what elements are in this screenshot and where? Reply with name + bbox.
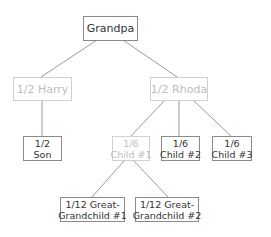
- node-label: Grandchild #1: [58, 210, 127, 221]
- node-great-grandchild-2: 1/12 Great- Grandchild #2: [135, 197, 199, 222]
- node-share: 1/2: [35, 138, 50, 149]
- node-label: Child #1: [111, 149, 152, 160]
- node-label: Child #3: [212, 149, 253, 160]
- node-label: Grandchild #2: [133, 210, 202, 221]
- node-child1: 1/6 Child #1: [112, 136, 150, 161]
- node-label: 1/2 Rhoda: [151, 84, 207, 95]
- edge-rhoda-child1: [131, 101, 164, 136]
- edge-child1-ggc2: [134, 161, 168, 197]
- node-share: 1/12 Great-: [140, 199, 194, 210]
- node-label: Child #2: [160, 149, 201, 160]
- edge-rhoda-child3: [194, 101, 231, 136]
- node-share: 1/12 Great-: [65, 199, 119, 210]
- edge-child1-ggc1: [92, 161, 124, 197]
- node-share: 1/6: [173, 138, 188, 149]
- node-harry: 1/2 Harry: [13, 77, 72, 101]
- node-share: 1/6: [123, 138, 138, 149]
- node-rhoda: 1/2 Rhoda: [150, 77, 208, 101]
- node-share: 1/6: [224, 138, 239, 149]
- edge-grandpa-rhoda: [123, 40, 177, 77]
- node-child3: 1/6 Child #3: [212, 136, 252, 161]
- node-son: 1/2 Son: [23, 136, 62, 161]
- edge-grandpa-harry: [41, 40, 97, 77]
- node-label: Son: [34, 149, 52, 160]
- node-label: 1/2 Harry: [17, 84, 69, 95]
- node-grandpa: Grandpa: [83, 16, 138, 41]
- node-label: Grandpa: [87, 23, 134, 34]
- node-child2: 1/6 Child #2: [161, 136, 200, 161]
- node-great-grandchild-1: 1/12 Great- Grandchild #1: [60, 197, 125, 222]
